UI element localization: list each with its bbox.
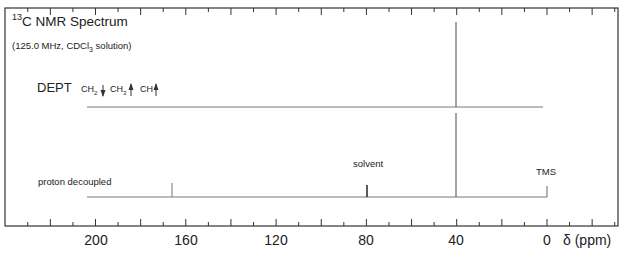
nmr-plot (0, 0, 622, 254)
chart-subtitle: (125.0 MHz, CDCl3 solution) (12, 40, 132, 53)
dept-legend-ch2: CH2 (81, 84, 97, 96)
tick-label-120: 120 (264, 232, 287, 248)
tick-label-200: 200 (84, 232, 107, 248)
tick-label-80: 80 (358, 232, 374, 248)
x-axis-label: δ (ppm) (563, 232, 611, 248)
tick-label-160: 160 (174, 232, 197, 248)
tick-label-40: 40 (448, 232, 464, 248)
dept-label: DEPT (37, 80, 72, 95)
dept-legend-ch3: CH3 (110, 84, 126, 96)
dept-legend-ch: CH (140, 84, 153, 94)
proton-decoupled-label: proton decoupled (38, 176, 111, 187)
tms-label: TMS (536, 166, 556, 177)
tick-label-0: 0 (543, 232, 551, 248)
solvent-label: solvent (353, 158, 383, 169)
chart-title: 13C NMR Spectrum (12, 14, 128, 29)
